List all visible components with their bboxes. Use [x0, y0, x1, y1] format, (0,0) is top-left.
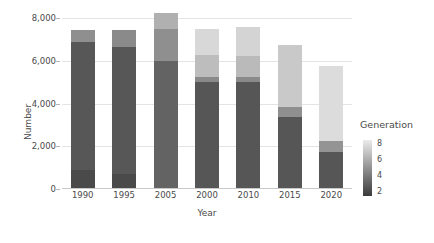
y-axis-tick-mark [56, 18, 60, 19]
bar[interactable] [112, 30, 136, 189]
legend-tick-label: 2 [377, 188, 382, 196]
y-axis-tick-label: 4,000 [32, 99, 56, 108]
bar-segment[interactable] [71, 170, 95, 189]
bar-segment[interactable] [195, 77, 219, 82]
x-axis-title: Year [62, 208, 352, 218]
bar-segment[interactable] [112, 30, 136, 47]
x-axis-tick-label: 2005 [146, 191, 186, 200]
bar-segment[interactable] [154, 61, 178, 189]
x-axis-line [62, 188, 352, 189]
y-axis-tick-mark [56, 146, 60, 147]
y-axis-tick-label: 2,000 [32, 142, 56, 151]
bar-segment[interactable] [112, 174, 136, 189]
bar[interactable] [71, 30, 95, 189]
legend-tick-label: 4 [377, 172, 382, 180]
bar-segment[interactable] [154, 29, 178, 61]
bar-segment[interactable] [195, 55, 219, 76]
bar-segment[interactable] [236, 82, 260, 189]
y-axis-tick-mark [56, 61, 60, 62]
x-axis-tick-label: 1990 [63, 191, 103, 200]
bar[interactable] [319, 66, 343, 189]
bar-segment[interactable] [195, 82, 219, 189]
legend-body: 2468 [360, 140, 434, 196]
gridline [62, 18, 352, 19]
bar-segment[interactable] [236, 27, 260, 57]
legend-title: Generation [360, 120, 434, 130]
legend-tick-label: 8 [377, 140, 382, 148]
stacked-bar-chart: Number 02,0004,0006,0008,000 19901995200… [0, 0, 434, 243]
bar[interactable] [236, 27, 260, 189]
legend: Generation 2468 [360, 120, 434, 196]
bar-segment[interactable] [195, 29, 219, 56]
y-axis-tick-label: 6,000 [32, 57, 56, 66]
plot-area [62, 18, 352, 189]
bar[interactable] [278, 45, 302, 189]
bar[interactable] [154, 13, 178, 189]
bar-segment[interactable] [71, 30, 95, 42]
x-axis-tick-labels: 1990199520052000201020152020 [62, 191, 352, 205]
bar-segment[interactable] [112, 47, 136, 174]
y-axis-tick-label: 8,000 [32, 14, 56, 23]
bar-segment[interactable] [236, 56, 260, 76]
bar-segment[interactable] [278, 45, 302, 107]
bar-segment[interactable] [319, 152, 343, 189]
bar-segment[interactable] [71, 42, 95, 170]
bar-segment[interactable] [319, 66, 343, 141]
x-axis-tick-label: 1995 [104, 191, 144, 200]
x-axis-tick-label: 2020 [311, 191, 351, 200]
bar-segment[interactable] [278, 107, 302, 118]
bar-segment[interactable] [278, 117, 302, 189]
y-axis-tick-mark [56, 189, 60, 190]
legend-tick-label: 6 [377, 156, 382, 164]
x-axis-tick-label: 2015 [270, 191, 310, 200]
x-axis-tick-label: 2010 [228, 191, 268, 200]
legend-colorbar [363, 140, 372, 196]
bar-segment[interactable] [319, 141, 343, 152]
y-axis-tick-labels: 02,0004,0006,0008,000 [0, 18, 56, 189]
x-axis-tick-label: 2000 [187, 191, 227, 200]
bar-segment[interactable] [154, 13, 178, 29]
bar[interactable] [195, 29, 219, 189]
bar-segment[interactable] [236, 77, 260, 82]
y-axis-tick-mark [56, 104, 60, 105]
